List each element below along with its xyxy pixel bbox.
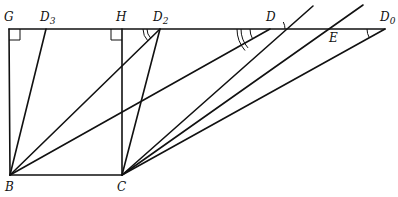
right-angle-H (111, 29, 122, 40)
label-G: G (4, 10, 14, 24)
right-angle-G (9, 29, 20, 40)
segment-B-D3 (10, 29, 46, 175)
angle-arc-D0 (367, 29, 369, 38)
label-C: C (117, 180, 126, 194)
angle-arc-D-inner (250, 29, 253, 39)
segment-B-D (10, 29, 270, 175)
label-D3: D3 (39, 10, 56, 26)
label-D2: D2 (152, 10, 169, 26)
label-D0: D0 (379, 10, 396, 26)
geometry-diagram: G D3 H D2 D E D0 B C (0, 0, 398, 197)
segment-G-B (9, 29, 10, 175)
right-angle-marks (9, 29, 122, 40)
label-E: E (328, 31, 338, 45)
label-D: D (265, 10, 276, 24)
segment-B-D2 (10, 29, 160, 175)
label-H: H (115, 10, 127, 24)
label-B: B (4, 180, 14, 194)
point-labels: G D3 H D2 D E D0 B C (4, 10, 396, 194)
segment-C-D0 (122, 29, 385, 175)
segment-C-D-ext (122, 6, 313, 175)
angle-arc-D2-1 (147, 29, 151, 38)
angle-arc-D-upper (283, 22, 285, 29)
